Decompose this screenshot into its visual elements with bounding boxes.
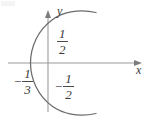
- fraction-one-half-positive: 1 2: [57, 27, 68, 56]
- y-axis-label: y: [57, 5, 62, 17]
- label-y-intercept-positive: 1 2: [57, 27, 68, 56]
- fraction-numerator: 1: [22, 67, 33, 81]
- y-axis-arrowhead: [45, 10, 51, 18]
- fraction-denominator: 3: [22, 81, 33, 96]
- fraction-numerator: 1: [63, 72, 74, 86]
- minus-sign: −: [55, 80, 62, 94]
- fraction-denominator: 2: [63, 86, 74, 101]
- parabola-figure: 1 2 − 1 2 − 1 3 x y: [0, 0, 149, 124]
- x-axis-label: x: [136, 64, 141, 76]
- fraction-denominator: 2: [57, 41, 68, 56]
- minus-sign: −: [14, 75, 21, 89]
- graph-canvas: [0, 0, 149, 124]
- fraction-one-third-negative: 1 3: [22, 67, 33, 96]
- fraction-one-half-negative: 1 2: [63, 72, 74, 101]
- label-x-vertex: − 1 3: [14, 67, 33, 96]
- fraction-numerator: 1: [57, 27, 68, 41]
- label-y-intercept-negative: − 1 2: [55, 72, 74, 101]
